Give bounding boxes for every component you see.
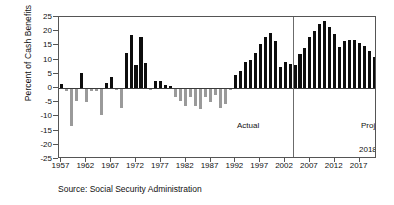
- x-tick-mark: [60, 158, 61, 162]
- bar: [323, 21, 326, 88]
- bar: [313, 31, 316, 88]
- bar: [328, 27, 331, 88]
- bar: [179, 88, 182, 101]
- x-tick-label: 2017: [342, 161, 376, 170]
- bar: [343, 41, 346, 88]
- bar: [80, 73, 83, 88]
- x-tick-mark: [359, 158, 360, 162]
- x-tick-mark: [234, 158, 235, 162]
- zero-baseline: [59, 88, 375, 89]
- bar: [259, 44, 262, 88]
- bar: [254, 53, 257, 89]
- bar: [264, 37, 267, 88]
- bar: [289, 64, 292, 88]
- bar: [110, 77, 113, 88]
- y-tick-label: 0: [30, 83, 52, 92]
- x-tick-mark: [160, 158, 161, 162]
- x-tick-mark: [110, 158, 111, 162]
- bar: [239, 71, 242, 88]
- bar: [358, 43, 361, 88]
- y-tick-label: 10: [30, 54, 52, 63]
- bar: [189, 88, 192, 97]
- y-tick-label: 20: [30, 26, 52, 35]
- annotation-actual: Actual: [237, 121, 259, 130]
- source-note: Source: Social Security Administration: [58, 184, 202, 194]
- bar: [70, 88, 73, 126]
- bar: [194, 88, 197, 106]
- bar: [269, 33, 272, 88]
- bar: [199, 88, 202, 109]
- bar: [139, 37, 142, 88]
- bar: [134, 65, 137, 88]
- y-tick-label: -5: [30, 97, 52, 106]
- bar: [234, 75, 237, 88]
- y-tick-label: 15: [30, 40, 52, 49]
- bar: [274, 41, 277, 88]
- bar: [318, 24, 321, 88]
- x-tick-mark: [85, 158, 86, 162]
- y-tick-mark: [53, 158, 58, 159]
- y-tick-label: -15: [30, 125, 52, 134]
- bar: [184, 88, 187, 106]
- bar: [144, 63, 147, 88]
- chart-figure: Percent of Cash Benefits 2520151050-5-10…: [0, 0, 394, 205]
- y-tick-label: -20: [30, 139, 52, 148]
- bar: [244, 62, 247, 88]
- bar: [348, 40, 351, 88]
- bar: [75, 88, 78, 101]
- bar: [204, 88, 207, 97]
- x-tick-mark: [334, 158, 335, 162]
- bar: [284, 62, 287, 88]
- plot-inner: Actual Projected 2018 "crisis"?: [59, 17, 375, 157]
- x-tick-mark: [259, 158, 260, 162]
- bar: [293, 65, 296, 88]
- bar: [279, 67, 282, 88]
- bar: [353, 40, 356, 88]
- bar: [214, 88, 217, 95]
- bar: [154, 81, 157, 88]
- bar: [209, 88, 212, 102]
- bar: [298, 54, 301, 88]
- bar: [100, 88, 103, 115]
- y-tick-label: -10: [30, 111, 52, 120]
- bar: [120, 88, 123, 108]
- bar: [303, 48, 306, 88]
- bar: [249, 60, 252, 88]
- bar: [174, 88, 177, 97]
- y-tick-label: 5: [30, 68, 52, 77]
- bar: [308, 37, 311, 88]
- plot-area: Actual Projected 2018 "crisis"?: [58, 16, 376, 158]
- x-tick-mark: [210, 158, 211, 162]
- bar: [130, 35, 133, 88]
- bar: [363, 46, 366, 88]
- x-tick-mark: [284, 158, 285, 162]
- bar: [125, 53, 128, 89]
- x-tick-mark: [135, 158, 136, 162]
- x-tick-mark: [309, 158, 310, 162]
- x-tick-mark: [185, 158, 186, 162]
- bar: [373, 57, 375, 88]
- actual-projected-divider: [293, 17, 294, 157]
- bar: [333, 34, 336, 88]
- annotation-projected: Projected: [361, 121, 375, 130]
- bar: [338, 47, 341, 88]
- bar: [85, 88, 88, 102]
- y-tick-label: 25: [30, 12, 52, 21]
- annotation-crisis: 2018 "crisis"?: [359, 145, 375, 154]
- bar: [368, 51, 371, 88]
- bar: [159, 81, 162, 88]
- bar: [219, 88, 222, 108]
- bar: [224, 88, 227, 104]
